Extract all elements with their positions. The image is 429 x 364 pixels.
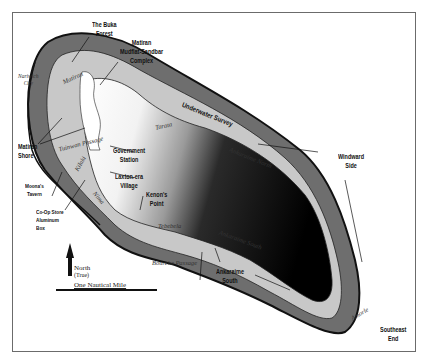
label-coop-store: Co-Op Store Aluminum Box [36,208,64,232]
region-nariwich-city: Nariwich City [18,73,38,87]
region-bourche-passage: Bourche Passage [152,259,197,266]
scale-label: One Nautical Mile [74,281,126,289]
label-laxton-village: Laxton-era Village [115,172,143,190]
label-matiran-shore: Matiran Shore [18,142,37,160]
north-label: North [74,264,90,272]
label-kenons-point: Kenon's Point [146,190,167,208]
label-southeast-end: Southeast End [380,325,406,343]
label-windward-side: Windward Side [338,152,364,170]
label-moonas-tavern: Moona's Tavern [25,182,44,198]
north-arrow-icon [66,243,74,276]
north-sub-label: (True) [74,272,89,278]
region-tebebela: Tebebela [158,222,181,229]
label-buka-forest: The Buka Forest [92,20,117,38]
label-government-station: Government Station [113,146,145,164]
label-ankaraime-south: Ankaraime South [216,267,244,285]
label-mudflat-complex: Matiran Mudflat-Sandbar Complex [120,38,163,65]
